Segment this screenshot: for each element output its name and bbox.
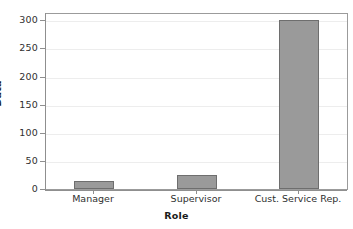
y-tick-150 — [40, 105, 45, 106]
x-tick-label-cust-service-rep: Cust. Service Rep. — [245, 194, 351, 204]
bar-cust-service-rep — [279, 20, 319, 189]
y-axis-line — [45, 13, 46, 191]
plot-inner — [46, 14, 347, 189]
y-tick-label-250: 250 — [19, 43, 38, 53]
y-tick-250 — [40, 48, 45, 49]
y-tick-label-150: 150 — [19, 100, 38, 110]
x-tick-label-supervisor: Supervisor — [156, 194, 236, 204]
y-tick-100 — [40, 133, 45, 134]
y-tick-label-100: 100 — [19, 128, 38, 138]
bar-chart: 300 250 200 150 100 50 0 Data Manager Su… — [0, 0, 353, 229]
y-axis-title: Data — [0, 80, 3, 106]
y-tick-300 — [40, 20, 45, 21]
y-tick-label-200: 200 — [19, 72, 38, 82]
x-axis-title: Role — [0, 210, 353, 221]
y-tick-label-0: 0 — [32, 184, 38, 194]
y-tick-200 — [40, 77, 45, 78]
y-tick-label-50: 50 — [26, 156, 39, 166]
plot-area — [45, 13, 348, 190]
y-tick-label-300: 300 — [19, 15, 38, 25]
bar-manager — [74, 181, 114, 189]
y-tick-50 — [40, 161, 45, 162]
x-tick-label-manager: Manager — [53, 194, 133, 204]
bar-supervisor — [177, 175, 217, 189]
y-tick-0 — [40, 189, 45, 190]
